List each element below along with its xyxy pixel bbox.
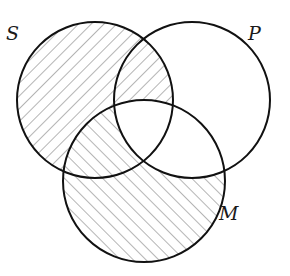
label-s: S xyxy=(6,22,19,44)
label-p: P xyxy=(247,22,262,44)
venn-diagram: S P M xyxy=(0,0,290,276)
label-m: M xyxy=(218,202,239,224)
